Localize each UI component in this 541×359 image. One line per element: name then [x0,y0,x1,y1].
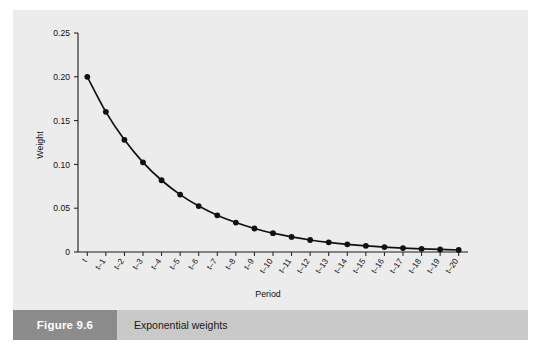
x-axis-tick-label: t–6 [186,257,200,272]
y-axis-title: Weight [35,131,45,159]
data-point [307,237,313,243]
data-point [122,137,128,143]
y-axis-tick-label: 0.20 [53,72,70,82]
figure-caption-bar: Figure 9.6 Exponential weights [13,310,528,340]
data-point [344,241,350,247]
x-axis-tick-label: t–16 [370,257,387,276]
figure-number-label: Figure 9.6 [13,310,117,340]
x-axis-tick-label: t–2 [112,257,126,272]
data-point [456,247,462,253]
x-axis-tick-label: t–3 [131,257,145,272]
data-point [196,203,202,209]
chart-plot-area: 00.050.100.150.200.25 tt–1t–2t–3t–4t–5t–… [13,10,528,310]
x-axis-tick-label: t–15 [351,257,368,276]
figure-panel: 00.050.100.150.200.25 tt–1t–2t–3t–4t–5t–… [13,10,528,310]
x-axis-title: Period [255,289,281,299]
y-axis-tick-label: 0.05 [53,203,70,213]
x-axis-tick-label: t [80,256,89,264]
x-axis-tick-label: t–19 [425,257,442,276]
x-axis-tick-label: t–10 [258,257,275,276]
y-axis-tick-label: 0.10 [53,160,70,170]
data-point [270,230,276,236]
y-axis-tick-label: 0 [65,247,70,257]
data-point [140,159,146,165]
y-axis-tick-label: 0.25 [53,28,70,38]
y-axis-tick-labels: 00.050.100.150.200.25 [53,28,70,257]
data-point [437,247,443,253]
data-point [103,109,109,115]
x-axis-ticks [87,252,458,256]
data-point [84,74,90,80]
data-point [159,177,165,183]
x-axis-tick-label: t–13 [314,257,331,276]
x-axis-tick-label: t–4 [149,257,163,272]
x-axis-tick-labels: tt–1t–2t–3t–4t–5t–6t–7t–8t–9t–10t–11t–12… [80,256,460,275]
x-axis-tick-label: t–12 [295,257,312,276]
x-axis-tick-label: t–20 [444,257,461,276]
x-axis-tick-label: t–5 [168,257,182,272]
y-axis-ticks [74,33,78,252]
x-axis-tick-label: t–9 [242,257,256,272]
figure-caption-text: Exponential weights [117,310,528,340]
data-point [382,244,388,250]
y-axis-tick-label: 0.15 [53,116,70,126]
x-axis-tick-label: t–1 [94,257,108,272]
data-point [363,243,369,249]
data-point [400,245,406,251]
data-point [214,212,220,218]
data-point [326,239,332,245]
data-point [419,246,425,252]
x-axis-tick-label: t–17 [388,257,405,276]
data-point [252,226,258,232]
data-point [177,192,183,198]
x-axis-tick-label: t–7 [205,257,219,272]
data-point [289,234,295,240]
x-axis-tick-label: t–14 [332,257,349,276]
x-axis-tick-label: t–8 [224,257,238,272]
data-point [233,220,239,226]
x-axis-tick-label: t–11 [277,257,293,275]
x-axis-tick-label: t–18 [407,257,424,276]
weights-data-points [84,74,461,253]
